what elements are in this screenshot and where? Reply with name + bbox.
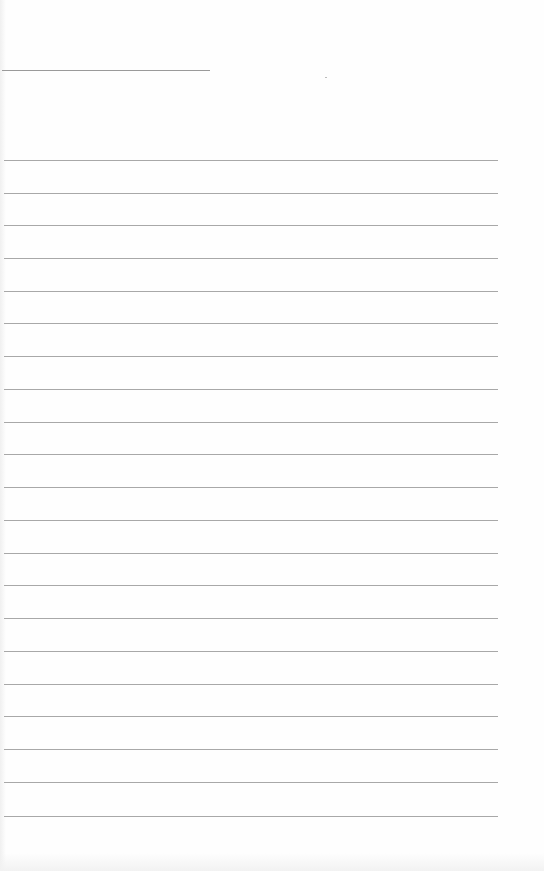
ruled-line bbox=[4, 782, 498, 783]
ruled-line bbox=[4, 651, 498, 652]
ruled-line bbox=[4, 323, 498, 324]
paper-speck bbox=[325, 77, 327, 78]
ruled-line bbox=[4, 553, 498, 554]
ruled-line bbox=[4, 454, 498, 455]
page-bottom-shadow bbox=[0, 853, 544, 871]
ruled-line bbox=[4, 193, 498, 194]
ruled-line bbox=[4, 520, 498, 521]
ruled-line bbox=[4, 585, 498, 586]
ruled-line bbox=[4, 618, 498, 619]
ruled-line bbox=[4, 487, 498, 488]
ruled-line bbox=[4, 749, 498, 750]
ruled-line bbox=[4, 160, 498, 161]
lined-page bbox=[0, 0, 544, 871]
ruled-line bbox=[4, 225, 498, 226]
ruled-line bbox=[4, 389, 498, 390]
ruled-line bbox=[4, 258, 498, 259]
ruled-line bbox=[4, 356, 498, 357]
ruled-line bbox=[4, 422, 498, 423]
ruled-line bbox=[4, 716, 498, 717]
header-rule-line bbox=[2, 70, 210, 71]
page-edge-shadow bbox=[0, 0, 6, 871]
ruled-line bbox=[4, 816, 498, 817]
ruled-line bbox=[4, 291, 498, 292]
ruled-line bbox=[4, 684, 498, 685]
